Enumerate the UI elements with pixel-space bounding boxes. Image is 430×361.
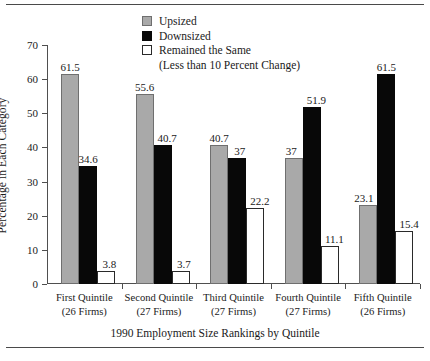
bar-downsized-first-quintile[interactable]: 34.6 — [79, 166, 97, 284]
x-tick-1 — [122, 284, 123, 289]
bar-group-second-quintile: 55.6 40.7 3.7 — [122, 45, 197, 284]
bar-value-same-fifth-quintile: 15.4 — [399, 218, 418, 231]
y-tick-label-60: 60 — [27, 72, 38, 87]
bar-downsized-fifth-quintile[interactable]: 61.5 — [377, 74, 395, 284]
y-tick-0: 0 — [42, 284, 47, 285]
bar-value-upsized-second-quintile: 55.6 — [135, 81, 154, 94]
bar-value-upsized-first-quintile: 61.5 — [60, 61, 79, 74]
bar-value-same-third-quintile: 22.2 — [250, 195, 269, 208]
category-firms-third-quintile: (27 Firms) — [196, 305, 271, 319]
category-label-fifth-quintile: Fifth Quintile (26 Firms) — [345, 291, 420, 319]
top-rule — [6, 4, 424, 5]
category-label-second-quintile: Second Quintile (27 Firms) — [122, 291, 197, 319]
bar-value-downsized-first-quintile: 34.6 — [78, 153, 97, 166]
legend-swatch-downsized-icon — [142, 31, 152, 41]
x-tick-2 — [196, 284, 197, 289]
y-tick-label-0: 0 — [33, 277, 39, 292]
bar-value-same-first-quintile: 3.8 — [102, 258, 116, 271]
bar-value-downsized-second-quintile: 40.7 — [158, 132, 177, 145]
legend-entry-downsized: Downsized — [142, 29, 300, 44]
bar-group-third-quintile: 40.7 37 22.2 — [196, 45, 271, 284]
bar-value-same-fourth-quintile: 11.1 — [325, 233, 344, 246]
bar-value-upsized-third-quintile: 40.7 — [210, 132, 229, 145]
bottom-rule — [6, 347, 424, 348]
bar-upsized-first-quintile[interactable]: 61.5 — [61, 74, 79, 284]
category-firms-fifth-quintile: (26 Firms) — [345, 305, 420, 319]
bar-group-first-quintile: 61.5 34.6 3.8 — [47, 45, 122, 284]
bar-same-fifth-quintile[interactable]: 15.4 — [395, 231, 413, 284]
bar-downsized-second-quintile[interactable]: 40.7 — [154, 145, 172, 284]
category-name-second-quintile: Second Quintile — [122, 291, 197, 305]
bar-same-second-quintile[interactable]: 3.7 — [172, 271, 190, 284]
category-label-fourth-quintile: Fourth Quintile (27 Firms) — [271, 291, 346, 319]
bar-value-downsized-third-quintile: 37 — [234, 145, 245, 158]
bar-value-downsized-fourth-quintile: 51.9 — [307, 94, 326, 107]
category-name-first-quintile: First Quintile — [47, 291, 122, 305]
y-tick-label-30: 30 — [27, 175, 38, 190]
bar-value-downsized-fifth-quintile: 61.5 — [377, 61, 396, 74]
x-tick-4 — [345, 284, 346, 289]
x-tick-3 — [271, 284, 272, 289]
bar-same-first-quintile[interactable]: 3.8 — [97, 271, 115, 284]
category-firms-second-quintile: (27 Firms) — [122, 305, 197, 319]
bar-same-third-quintile[interactable]: 22.2 — [246, 208, 264, 284]
bar-upsized-second-quintile[interactable]: 55.6 — [136, 94, 154, 284]
bar-downsized-third-quintile[interactable]: 37 — [228, 158, 246, 284]
bar-downsized-fourth-quintile[interactable]: 51.9 — [303, 107, 321, 284]
x-axis-category-labels: First Quintile (26 Firms) Second Quintil… — [47, 291, 420, 323]
x-tick-5 — [420, 284, 421, 289]
legend-label-downsized: Downsized — [159, 29, 211, 44]
category-label-third-quintile: Third Quintile (27 Firms) — [196, 291, 271, 319]
bar-upsized-fourth-quintile[interactable]: 37 — [285, 158, 303, 284]
y-tick-label-40: 40 — [27, 140, 38, 155]
plot-area: 0 10 20 30 40 50 60 70 61. — [47, 45, 420, 284]
bar-group-fourth-quintile: 37 51.9 11.1 — [271, 45, 346, 284]
bar-group-fifth-quintile: 23.1 61.5 15.4 — [345, 45, 420, 284]
bar-value-upsized-fifth-quintile: 23.1 — [354, 192, 373, 205]
y-axis-title: Percentage in Each Category — [0, 46, 8, 285]
bar-upsized-third-quintile[interactable]: 40.7 — [210, 145, 228, 284]
category-name-fourth-quintile: Fourth Quintile — [271, 291, 346, 305]
category-name-third-quintile: Third Quintile — [196, 291, 271, 305]
bar-value-same-second-quintile: 3.7 — [177, 258, 191, 271]
legend-entry-upsized: Upsized — [142, 14, 300, 29]
y-tick-label-10: 10 — [27, 243, 38, 258]
y-tick-label-70: 70 — [27, 38, 38, 53]
category-firms-fourth-quintile: (27 Firms) — [271, 305, 346, 319]
figure: Upsized Downsized Remained the Same (Les… — [0, 0, 430, 361]
x-axis-title: 1990 Employment Size Rankings by Quintil… — [0, 327, 430, 339]
category-name-fifth-quintile: Fifth Quintile — [345, 291, 420, 305]
category-label-first-quintile: First Quintile (26 Firms) — [47, 291, 122, 319]
legend-label-upsized: Upsized — [159, 14, 197, 29]
bar-upsized-fifth-quintile[interactable]: 23.1 — [359, 205, 377, 284]
bar-value-upsized-fourth-quintile: 37 — [286, 145, 297, 158]
y-tick-label-20: 20 — [27, 209, 38, 224]
category-firms-first-quintile: (26 Firms) — [47, 305, 122, 319]
legend-swatch-upsized-icon — [142, 16, 152, 26]
y-tick-label-50: 50 — [27, 106, 38, 121]
bar-same-fourth-quintile[interactable]: 11.1 — [321, 246, 339, 284]
